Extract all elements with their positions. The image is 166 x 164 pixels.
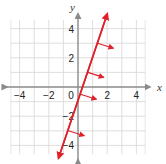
x-tick-label: 2 [104, 90, 110, 101]
shading-arrow [68, 131, 84, 136]
y-tick-label: 4 [68, 24, 74, 35]
y-tick-label: 2 [68, 53, 74, 64]
x-axis-label: x [156, 81, 162, 93]
x-tick-label: 4 [134, 90, 140, 101]
shading-arrow [80, 94, 96, 99]
line-segment [59, 14, 108, 158]
shading-arrow [88, 72, 104, 77]
y-axis-label: y [69, 1, 75, 13]
boundary-line [59, 14, 108, 158]
x-tick-label: 0 [68, 90, 74, 101]
x-tick-label: −4 [14, 90, 26, 101]
coordinate-plane: xy −4−2024−4−224 [0, 0, 166, 164]
shading-arrow [97, 43, 113, 48]
x-tick-label: −2 [43, 90, 55, 101]
